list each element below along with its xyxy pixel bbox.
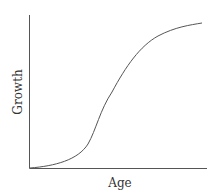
y-axis-label: Growth bbox=[11, 69, 25, 115]
growth-chart: Age Growth bbox=[0, 0, 215, 194]
growth-curve bbox=[30, 23, 202, 168]
x-axis-label: Age bbox=[107, 176, 131, 190]
